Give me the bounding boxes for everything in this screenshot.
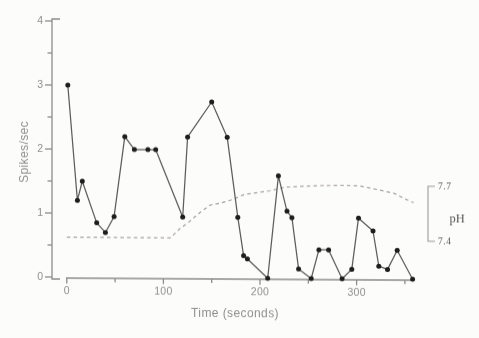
y-axis-title: Spikes/sec <box>17 121 31 183</box>
x-axis <box>66 278 413 280</box>
data-point-marker <box>395 248 400 253</box>
spike-rate-line <box>68 85 413 279</box>
data-point-marker <box>75 198 80 203</box>
y-tick-label-4: 4 <box>37 14 43 26</box>
y-tick-label-3: 3 <box>37 78 43 90</box>
y-tick-label-2: 2 <box>37 142 43 154</box>
data-point-marker <box>326 247 331 252</box>
data-point-marker <box>180 214 185 219</box>
data-point-marker <box>122 134 127 139</box>
data-point-marker <box>296 266 301 271</box>
data-point-marker <box>410 277 415 282</box>
data-point-marker <box>276 173 281 178</box>
x-tick-label-0: 0 <box>64 285 70 297</box>
data-point-marker <box>103 230 108 235</box>
data-point-marker <box>209 99 214 104</box>
x-tick-label-100: 100 <box>154 285 172 297</box>
x-axis-title: Time (seconds) <box>191 306 279 321</box>
data-series <box>65 83 415 282</box>
data-point-marker <box>245 256 250 261</box>
data-point-marker <box>65 83 70 88</box>
data-point-marker <box>316 247 321 252</box>
data-point-marker <box>132 147 137 152</box>
data-point-marker <box>94 220 99 225</box>
x-tick-label-200: 200 <box>251 286 269 298</box>
data-point-marker <box>241 253 246 258</box>
scanned-figure: 4 3 2 1 0 0 100 200 300 Spikes/sec Time … <box>0 0 479 338</box>
data-point-marker <box>340 276 345 281</box>
axis-labels: 4 3 2 1 0 0 100 200 300 Spikes/sec Time … <box>17 14 366 321</box>
data-point-marker <box>376 264 381 269</box>
data-point-marker <box>145 147 150 152</box>
y-axis <box>52 19 60 279</box>
right-axis-labels: 7.7 7.4 pH <box>438 182 465 247</box>
data-point-marker <box>225 135 230 140</box>
data-point-marker <box>80 179 85 184</box>
ph-scale-bracket <box>428 186 435 241</box>
ph-axis-title: pH <box>450 211 465 225</box>
data-point-marker <box>153 147 158 152</box>
data-point-marker <box>265 276 270 281</box>
data-point-marker <box>235 215 240 220</box>
axes <box>45 19 435 286</box>
y-tick-label-0: 0 <box>37 270 43 282</box>
data-point-marker <box>112 214 117 219</box>
ph-top-tick-label: 7.7 <box>438 182 451 192</box>
data-point-marker <box>356 216 361 221</box>
data-point-marker <box>285 209 290 214</box>
data-point-marker <box>385 267 390 272</box>
data-point-marker <box>371 228 376 233</box>
x-tick-label-300: 300 <box>347 286 365 298</box>
y-tick-label-1: 1 <box>37 206 43 218</box>
data-point-marker <box>289 215 294 220</box>
ph-bottom-tick-label: 7.4 <box>438 237 451 247</box>
data-point-marker <box>349 267 354 272</box>
data-point-marker <box>309 276 314 281</box>
spikes-vs-ph-chart: 4 3 2 1 0 0 100 200 300 Spikes/sec Time … <box>0 0 479 338</box>
data-point-marker <box>185 135 190 140</box>
